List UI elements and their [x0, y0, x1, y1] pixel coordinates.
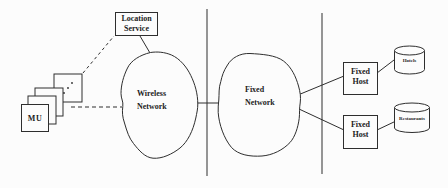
diagram-artwork: Hotels Restaurants — [0, 0, 448, 188]
fixed-host-top-label-line2: Host — [344, 77, 377, 87]
fixed-to-host-top-line — [298, 76, 344, 95]
fixed-network-label-line2: Network — [245, 96, 275, 109]
restaurants-database-cylinder: Restaurants — [395, 103, 430, 133]
host-to-hotels-line — [377, 60, 394, 73]
fixed-host-bottom-label-line1: Fixed — [344, 120, 377, 130]
location-to-wireless-line — [140, 36, 150, 53]
wireless-network-label-line2: Network — [137, 100, 167, 113]
restaurants-database-label: Restaurants — [399, 116, 425, 121]
fixed-host-top-box: Fixed Host — [343, 62, 378, 95]
fixed-network-label-line1: Fixed — [245, 83, 275, 96]
host-to-restaurants-line — [377, 121, 396, 130]
hotels-database-label: Hotels — [403, 58, 417, 63]
fixed-host-top-label-line1: Fixed — [344, 67, 377, 77]
location-service-label-line1: Location — [116, 14, 157, 24]
wireless-network-label-line1: Wireless — [137, 87, 167, 100]
mu-to-location-dashed-line — [83, 36, 114, 73]
fixed-host-bottom-box: Fixed Host — [343, 115, 378, 149]
fixed-host-bottom-label-line2: Host — [344, 130, 377, 140]
fixed-network-label: Fixed Network — [245, 83, 275, 109]
hotels-database-cylinder: Hotels — [395, 46, 425, 74]
location-service-box: Location Service — [115, 12, 158, 36]
mobile-unit-box: MU — [21, 104, 49, 132]
network-architecture-diagram: Hotels Restaurants Location Service MU W… — [0, 0, 448, 188]
location-service-label-line2: Service — [116, 24, 157, 34]
mobile-unit-label: MU — [28, 114, 42, 123]
wireless-network-label: Wireless Network — [137, 87, 167, 113]
